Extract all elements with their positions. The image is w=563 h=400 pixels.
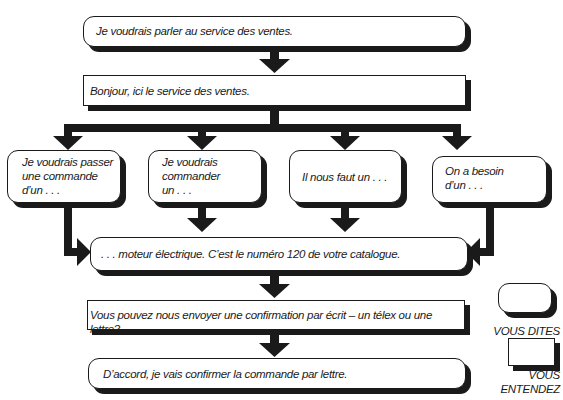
legend-vous-entendez-label-line1: VOUS: [470, 368, 560, 382]
node-text: Il nous faut un . . .: [302, 170, 387, 184]
node-text: On a besoin d’un . . .: [445, 164, 504, 192]
legend-vous-dites-label: VOUS DITES: [470, 324, 560, 338]
node-option-commander: Je voudrais commander un . . .: [148, 150, 262, 203]
node-confirm-by-letter: D’accord, je vais confirmer la commande …: [88, 358, 466, 389]
legend-vous-dites-swatch: [498, 283, 552, 313]
node-text: . . . moteur électrique. C’est le numéro…: [101, 247, 400, 261]
node-product-catalogue-number: . . . moteur électrique. C’est le numéro…: [90, 237, 468, 271]
node-text: Je voudrais commander un . . .: [162, 155, 220, 197]
node-option-il-nous-faut: Il nous faut un . . .: [289, 150, 402, 203]
legend-vous-entendez-swatch: [508, 338, 555, 366]
node-text: D’accord, je vais confirmer la commande …: [103, 367, 347, 381]
node-text: Bonjour, ici le service des ventes.: [90, 84, 250, 98]
node-sales-greeting: Bonjour, ici le service des ventes.: [83, 75, 466, 106]
node-text: Je voudrais parler au service des ventes…: [96, 24, 293, 38]
legend-vous-entendez-label-line2: ENTENDEZ: [470, 382, 560, 396]
node-text: Je voudrais passer une commande d’un . .…: [22, 155, 113, 197]
node-option-passer-commande: Je voudrais passer une commande d’un . .…: [7, 150, 121, 203]
node-confirmation-request: Vous pouvez nous envoyer une confirmatio…: [87, 300, 465, 330]
node-request-sales-dept: Je voudrais parler au service des ventes…: [83, 16, 466, 47]
flowchart: Je voudrais parler au service des ventes…: [0, 0, 563, 400]
node-text: Vous pouvez nous envoyer une confirmatio…: [90, 308, 464, 336]
node-option-on-a-besoin: On a besoin d’un . . .: [432, 156, 547, 203]
